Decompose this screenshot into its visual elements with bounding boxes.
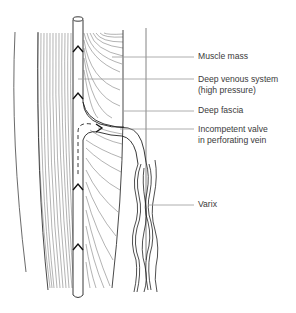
venous-diagram [0, 0, 296, 313]
label-varix: Varix [198, 199, 217, 210]
leader-lines [78, 57, 194, 205]
varix [132, 160, 157, 292]
label-deep-venous-system: Deep venous system (high pressure) [198, 74, 278, 95]
incompetent-valve-icon [96, 124, 102, 132]
skin-outline-left [14, 32, 26, 272]
label-deep-venous-system-line2: (high pressure) [198, 85, 278, 96]
label-muscle-mass: Muscle mass [198, 51, 248, 62]
label-incompetent-valve-line2: in perforating vein [198, 135, 268, 146]
label-deep-venous-system-line1: Deep venous system [198, 74, 278, 85]
label-deep-fascia: Deep fascia [198, 105, 243, 116]
label-incompetent-valve: Incompetent valve in perforating vein [198, 124, 268, 145]
label-incompetent-valve-line1: Incompetent valve [198, 124, 268, 135]
